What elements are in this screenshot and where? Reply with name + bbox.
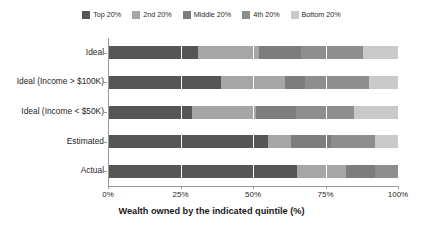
chart-legend: Top 20%2nd 20%Middle 20%4th 20%Bottom 20… [0,11,423,19]
y-axis-labels: IdealIdeal (Income > $100K)Ideal (Income… [0,38,104,186]
legend-item[interactable]: 2nd 20% [132,11,171,19]
gridline [326,38,327,186]
bar-segment[interactable] [108,46,198,59]
x-tick-mark [326,186,327,189]
legend-swatch-icon [183,11,191,19]
bar-segment[interactable] [297,165,346,178]
bar-segment[interactable] [108,165,297,178]
y-tick-label: Ideal (Income < $50K) [0,107,104,115]
x-tick-label: 100% [388,191,408,199]
legend-item[interactable]: Top 20% [82,11,121,19]
bar-segment[interactable] [375,135,398,148]
legend-item[interactable]: Middle 20% [183,11,232,19]
legend-item-label: Middle 20% [194,11,232,18]
x-tick-label: 0% [102,191,114,199]
x-tick-mark [181,186,182,189]
legend-item-label: 4th 20% [253,11,279,18]
x-tick-label: 75% [317,191,333,199]
stacked-bar-chart: Top 20%2nd 20%Middle 20%4th 20%Bottom 20… [0,0,423,230]
x-tick-mark [398,186,399,189]
legend-item-label: Top 20% [93,11,121,18]
bar-segment[interactable] [192,106,256,119]
y-tick-label: Estimated [0,137,104,145]
bar-segment[interactable] [363,46,398,59]
bar-segment[interactable] [108,135,268,148]
bar-segment[interactable] [305,76,369,89]
legend-swatch-icon [291,11,299,19]
bar-segment[interactable] [198,46,259,59]
legend-item-label: Bottom 20% [302,11,341,18]
bar-segment[interactable] [108,76,221,89]
bar-segment[interactable] [256,106,297,119]
legend-item[interactable]: 4th 20% [242,11,279,19]
bar-segment[interactable] [268,135,291,148]
y-tick-mark [104,82,107,83]
legend-item-label: 2nd 20% [143,11,171,18]
bar-segment[interactable] [331,135,375,148]
bar-segment[interactable] [285,76,305,89]
bar-segment[interactable] [346,165,375,178]
y-tick-mark [104,142,107,143]
bar-segment[interactable] [369,76,398,89]
y-tick-mark [104,53,107,54]
gridline [181,38,182,186]
x-tick-label: 25% [172,191,188,199]
gridline [253,38,254,186]
y-tick-mark [104,171,107,172]
legend-swatch-icon [82,11,90,19]
bar-segment[interactable] [301,46,363,59]
bar-segment[interactable] [108,106,192,119]
y-axis-line [108,38,109,186]
x-axis-title: Wealth owned by the indicated quintile (… [0,206,423,216]
x-tick-label: 50% [245,191,261,199]
plot-area [108,38,398,186]
legend-swatch-icon [132,11,140,19]
x-tick-mark [253,186,254,189]
x-tick-mark [108,186,109,189]
legend-item[interactable]: Bottom 20% [291,11,341,19]
y-tick-label: Actual [0,166,104,174]
y-tick-mark [104,112,107,113]
legend-swatch-icon [242,11,250,19]
bar-segment[interactable] [259,46,301,59]
y-tick-label: Ideal [0,48,104,56]
bar-segment[interactable] [354,106,398,119]
bar-segment[interactable] [375,165,398,178]
y-tick-label: Ideal (Income > $100K) [0,77,104,85]
